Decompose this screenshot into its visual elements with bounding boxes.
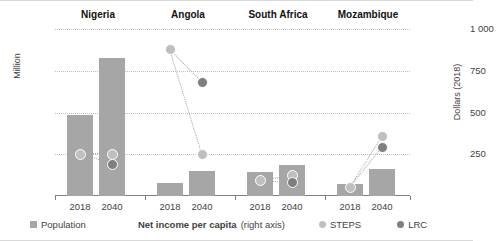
group-nigeria: Nigeria 2018 2040 [55, 29, 141, 196]
x-label-2018: 2018 [335, 201, 365, 212]
legend-label-population: Population [41, 219, 86, 230]
marker-lrc-2040 [107, 159, 118, 170]
group-header-south-africa: South Africa [235, 9, 321, 20]
bar-population-2040 [189, 171, 215, 196]
x-label-2018: 2018 [245, 201, 275, 212]
legend-label-net-income-axis-note: (right axis) [241, 219, 285, 230]
legend-item-steps[interactable]: STEPS [319, 219, 361, 230]
population-swatch-icon [30, 221, 37, 228]
marker-steps-2040 [197, 149, 208, 160]
marker-steps-2018 [165, 44, 176, 55]
right-tick-1000: 1 000 [470, 24, 498, 34]
x-label-2040: 2040 [367, 201, 397, 212]
bar-population-2018 [157, 183, 183, 196]
legend-item-net-income: Net income per capita (right axis) [138, 219, 285, 230]
right-tick-750: 750 [470, 66, 498, 76]
group-angola: Angola 2018 2040 [145, 29, 231, 196]
x-label-2018: 2018 [65, 201, 95, 212]
group-tick [325, 196, 326, 200]
group-south-africa: South Africa 2018 2040 [235, 29, 321, 196]
legend-label-steps: STEPS [330, 219, 361, 230]
steps-swatch-icon [319, 221, 326, 228]
lrc-swatch-icon [397, 221, 404, 228]
legend-label-lrc: LRC [408, 219, 427, 230]
x-label-2040: 2040 [187, 201, 217, 212]
group-tick [145, 196, 146, 200]
group-mozambique: Mozambique 2018 2040 [325, 29, 411, 196]
x-label-2018: 2018 [155, 201, 185, 212]
group-header-mozambique: Mozambique [325, 9, 411, 20]
marker-steps-2018 [255, 175, 266, 186]
marker-steps-2018 [345, 182, 356, 193]
right-tick-250: 250 [470, 149, 498, 159]
right-axis-title: Dollars (2018) [452, 52, 462, 132]
x-label-2040: 2040 [277, 201, 307, 212]
legend-item-population[interactable]: Population [30, 219, 86, 230]
x-label-2040: 2040 [97, 201, 127, 212]
group-tick-end [410, 196, 411, 200]
left-axis-title: Million [12, 36, 22, 96]
chart-legend: Population Net income per capita (right … [0, 214, 473, 234]
legend-item-lrc[interactable]: LRC [397, 219, 427, 230]
marker-lrc-2040 [287, 177, 298, 188]
group-header-angola: Angola [145, 9, 231, 20]
group-tick [235, 196, 236, 200]
group-header-nigeria: Nigeria [55, 9, 141, 20]
plot-area: 400 300 200 100 1 000 750 500 250 Nigeri… [55, 29, 410, 196]
group-tick [55, 196, 56, 200]
legend-label-net-income: Net income per capita [138, 219, 237, 230]
marker-lrc-2040 [377, 142, 388, 153]
bar-population-2040 [99, 58, 125, 196]
marker-lrc-2040 [197, 77, 208, 88]
right-tick-500: 500 [470, 108, 498, 118]
marker-steps-2040 [377, 131, 388, 142]
bar-population-2040 [369, 169, 395, 196]
marker-steps-2018 [75, 149, 86, 160]
